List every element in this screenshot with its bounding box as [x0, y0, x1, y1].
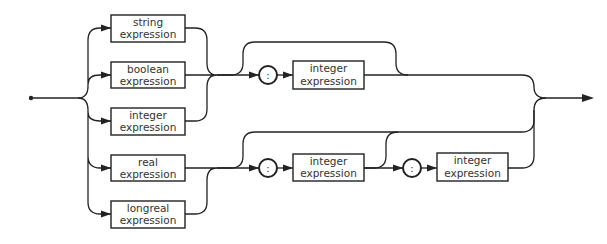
- svg-text::: :: [266, 163, 269, 174]
- svg-text:integer: integer: [454, 154, 492, 166]
- arrow-icon: [249, 165, 259, 172]
- arrow-icon: [101, 72, 111, 79]
- box-lower-integer-expression-2: integer expression: [437, 153, 508, 181]
- box-real-expression: real expression: [111, 155, 185, 181]
- fan-out-lower: [78, 98, 111, 214]
- box-string-expression: string expression: [111, 15, 185, 42]
- svg-text:expression: expression: [120, 121, 177, 133]
- box-boolean-expression: boolean expression: [111, 62, 185, 88]
- arrow-icon: [249, 72, 259, 79]
- svg-text:expression: expression: [300, 167, 357, 179]
- arrow-icon: [101, 165, 111, 172]
- lower-colon-symbol-1: :: [259, 159, 277, 177]
- svg-text:expression: expression: [120, 168, 177, 180]
- box-integer-expression: integer expression: [111, 108, 185, 135]
- lower-exit: [508, 110, 534, 168]
- svg-text:expression: expression: [300, 75, 357, 87]
- svg-text:expression: expression: [120, 75, 177, 87]
- syntax-diagram: string expression boolean expression int…: [0, 0, 607, 244]
- upper-colon-symbol: :: [259, 66, 277, 84]
- box-upper-integer-expression: integer expression: [293, 61, 364, 89]
- arrow-icon: [101, 25, 111, 32]
- svg-text:expression: expression: [444, 167, 501, 179]
- box-lower-integer-expression-1: integer expression: [293, 154, 364, 181]
- start-dot: [29, 96, 33, 100]
- arrow-icon: [283, 72, 293, 79]
- arrow-icon: [393, 165, 403, 172]
- upper-exit: [364, 75, 546, 98]
- svg-text:expression: expression: [120, 214, 177, 226]
- lower-merge: [185, 168, 217, 214]
- arrow-icon: [101, 211, 111, 218]
- svg-text:integer: integer: [310, 62, 348, 74]
- svg-text:integer: integer: [129, 109, 167, 121]
- upper-merge: [185, 28, 217, 121]
- arrow-icon: [101, 118, 111, 125]
- arrow-icon: [283, 165, 293, 172]
- arrow-icon: [427, 165, 437, 172]
- svg-text:real: real: [138, 156, 158, 168]
- fan-out-upper: [78, 28, 111, 98]
- svg-text::: :: [410, 163, 413, 174]
- svg-text:longreal: longreal: [127, 202, 170, 214]
- svg-text:boolean: boolean: [127, 63, 169, 75]
- box-longreal-expression: longreal expression: [111, 201, 185, 228]
- svg-text:string: string: [133, 16, 163, 28]
- svg-text:integer: integer: [310, 155, 348, 167]
- svg-text:expression: expression: [120, 28, 177, 40]
- svg-text::: :: [266, 70, 269, 81]
- lower-colon-symbol-2: :: [403, 159, 421, 177]
- exit-arrow-icon: [582, 94, 594, 102]
- lower-bypass-2: [364, 132, 398, 168]
